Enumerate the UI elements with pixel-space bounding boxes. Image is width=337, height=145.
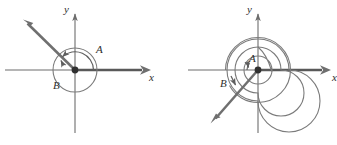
panel-left: y x A B	[5, 3, 154, 133]
right-angle-label-B: B	[220, 77, 227, 89]
right-angle-label-A: A	[248, 52, 256, 64]
panel-right: y x A B	[188, 3, 337, 133]
left-origin-dot	[72, 67, 79, 74]
right-angle-arc-B-tick	[231, 76, 236, 85]
right-y-axis-label: y	[246, 3, 252, 15]
angle-diagram-svg: y x A B	[0, 0, 337, 145]
left-angle-arc-B-tick	[61, 61, 64, 66]
left-y-axis-label: y	[63, 3, 69, 15]
left-x-axis-label: x	[148, 71, 154, 83]
right-x-axis-label: x	[331, 71, 337, 83]
left-terminal-ray	[28, 24, 76, 71]
left-angle-label-B: B	[53, 79, 60, 91]
right-spiral-turn-2	[235, 47, 304, 116]
figure-root: y x A B	[0, 0, 337, 145]
left-angle-label-A: A	[95, 43, 103, 55]
right-origin-dot	[255, 67, 262, 74]
